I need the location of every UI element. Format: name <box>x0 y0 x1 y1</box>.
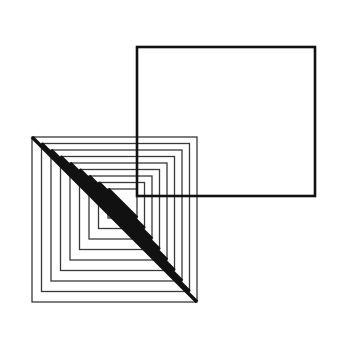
figure-canvas <box>0 0 342 337</box>
figure-svg <box>0 0 342 337</box>
